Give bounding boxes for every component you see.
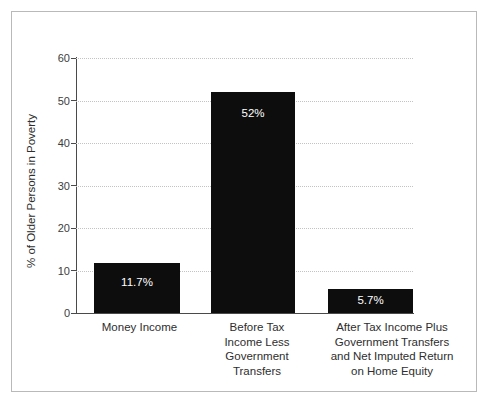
- y-tick-label-60: 60: [58, 53, 70, 64]
- y-tick-label-20: 20: [58, 223, 70, 234]
- chart-figure: 60 50 40 30 20 10 0 11.7% 52% 5.7%: [0, 0, 490, 412]
- y-tick-label-0: 0: [64, 308, 70, 319]
- bar-value-label-1: 11.7%: [94, 277, 180, 289]
- y-axis-title: % of Older Persons in Poverty: [25, 81, 37, 301]
- bar-value-label-2: 52%: [211, 108, 295, 120]
- bar-after-tax-income-plus-transfers-home-equity: 5.7%: [328, 289, 413, 313]
- bar-money-income: 11.7%: [94, 263, 180, 313]
- gridline-60: [76, 58, 413, 59]
- y-tick-label-50: 50: [58, 96, 70, 107]
- y-tick-label-30: 30: [58, 181, 70, 192]
- x-category-line: Transfers: [197, 364, 317, 379]
- x-axis-line: [76, 313, 414, 314]
- x-category-line: on Home Equity: [312, 364, 472, 379]
- x-category-line: Before Tax: [197, 320, 317, 335]
- plot-area: 11.7% 52% 5.7%: [76, 58, 413, 313]
- x-category-line: Money Income: [82, 320, 197, 335]
- x-category-label-2: Before Tax Income Less Government Transf…: [197, 320, 317, 378]
- bar-value-label-3: 5.7%: [328, 295, 413, 307]
- x-category-line: Income Less: [197, 335, 317, 350]
- bar-before-tax-income-less-government-transfers: 52%: [211, 92, 295, 313]
- y-axis-ticks: 60 50 40 30 20 10 0: [46, 0, 70, 412]
- x-category-line: and Net Imputed Return: [312, 349, 472, 364]
- x-category-label-3: After Tax Income Plus Government Transfe…: [312, 320, 472, 378]
- x-category-line: Government Transfers: [312, 335, 472, 350]
- x-category-line: After Tax Income Plus: [312, 320, 472, 335]
- y-tick-label-10: 10: [58, 266, 70, 277]
- y-tick-label-40: 40: [58, 138, 70, 149]
- x-category-line: Government: [197, 349, 317, 364]
- x-category-label-1: Money Income: [82, 320, 197, 335]
